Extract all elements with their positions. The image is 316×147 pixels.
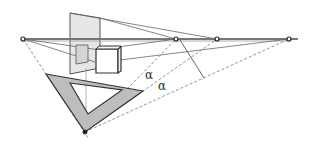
- cube-side: [118, 47, 121, 73]
- cube-top: [96, 46, 121, 49]
- horizon-point-2: [215, 37, 219, 41]
- plane-top-line-2: [100, 18, 176, 39]
- set-square: [46, 74, 143, 132]
- station-point: [83, 130, 87, 134]
- vp-line-4: [118, 39, 176, 47]
- alpha-label-2: α: [158, 79, 166, 93]
- left-vanishing-point: [21, 37, 25, 41]
- perpendicular-segment: [180, 40, 204, 78]
- cube-front: [96, 49, 118, 73]
- inner-box: [76, 45, 88, 64]
- perspective-diagram: α α: [0, 0, 316, 147]
- horizon-point-3: [287, 37, 291, 41]
- horizon-point-1: [174, 37, 178, 41]
- vp-line-3: [120, 39, 289, 60]
- alpha-label-1: α: [145, 68, 153, 82]
